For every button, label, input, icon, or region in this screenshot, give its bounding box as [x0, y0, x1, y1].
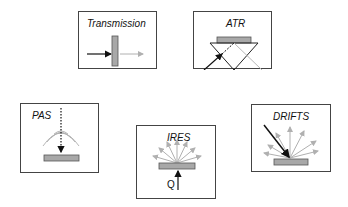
panel-atr: ATR [193, 11, 272, 69]
evanescent-path [222, 43, 234, 54]
panel-pas: PAS [20, 103, 99, 173]
scattered-ray [290, 151, 318, 158]
sample-slab [112, 36, 118, 66]
panel-ires: IRES Q [136, 125, 216, 199]
incident-beam-arrow [204, 54, 222, 70]
ires-diagram: Q [137, 126, 217, 200]
sample-slab [217, 37, 251, 43]
drifts-diagram [252, 105, 332, 173]
transmission-diagram [79, 12, 158, 70]
acoustic-wave [47, 133, 75, 142]
incident-beam-arrow [264, 125, 289, 157]
pas-diagram [21, 104, 100, 174]
sample-slab [159, 163, 195, 169]
heat-label: Q [167, 179, 175, 190]
sample-slab [274, 159, 308, 165]
atr-crystal [210, 43, 258, 70]
panel-transmission: Transmission [78, 11, 157, 69]
emission-ray [167, 142, 177, 163]
emission-ray [177, 142, 187, 163]
panel-drifts: DRIFTS [251, 104, 331, 172]
atr-diagram [194, 12, 273, 70]
sample-slab [44, 155, 79, 161]
